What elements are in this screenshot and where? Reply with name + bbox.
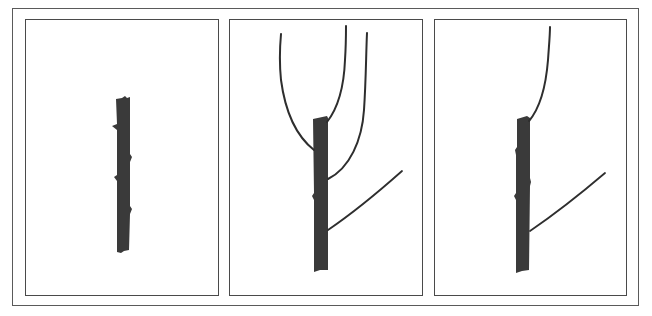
stem-trunk-icon <box>112 96 132 253</box>
stem-trunk-icon <box>514 116 531 273</box>
stem-panel-1 <box>112 96 132 253</box>
branch-upright-leader-icon <box>529 27 550 121</box>
branch-lateral-icon <box>530 173 605 231</box>
branch-curved-right-icon <box>328 33 367 179</box>
illustration-canvas <box>0 0 652 316</box>
branch-upright-middle-icon <box>327 26 346 122</box>
stem-panel-3 <box>514 27 605 273</box>
stem-trunk-icon <box>312 116 328 272</box>
branch-lateral-icon <box>328 171 402 230</box>
branch-upright-left-icon <box>280 34 314 150</box>
stem-panel-2 <box>280 26 402 272</box>
